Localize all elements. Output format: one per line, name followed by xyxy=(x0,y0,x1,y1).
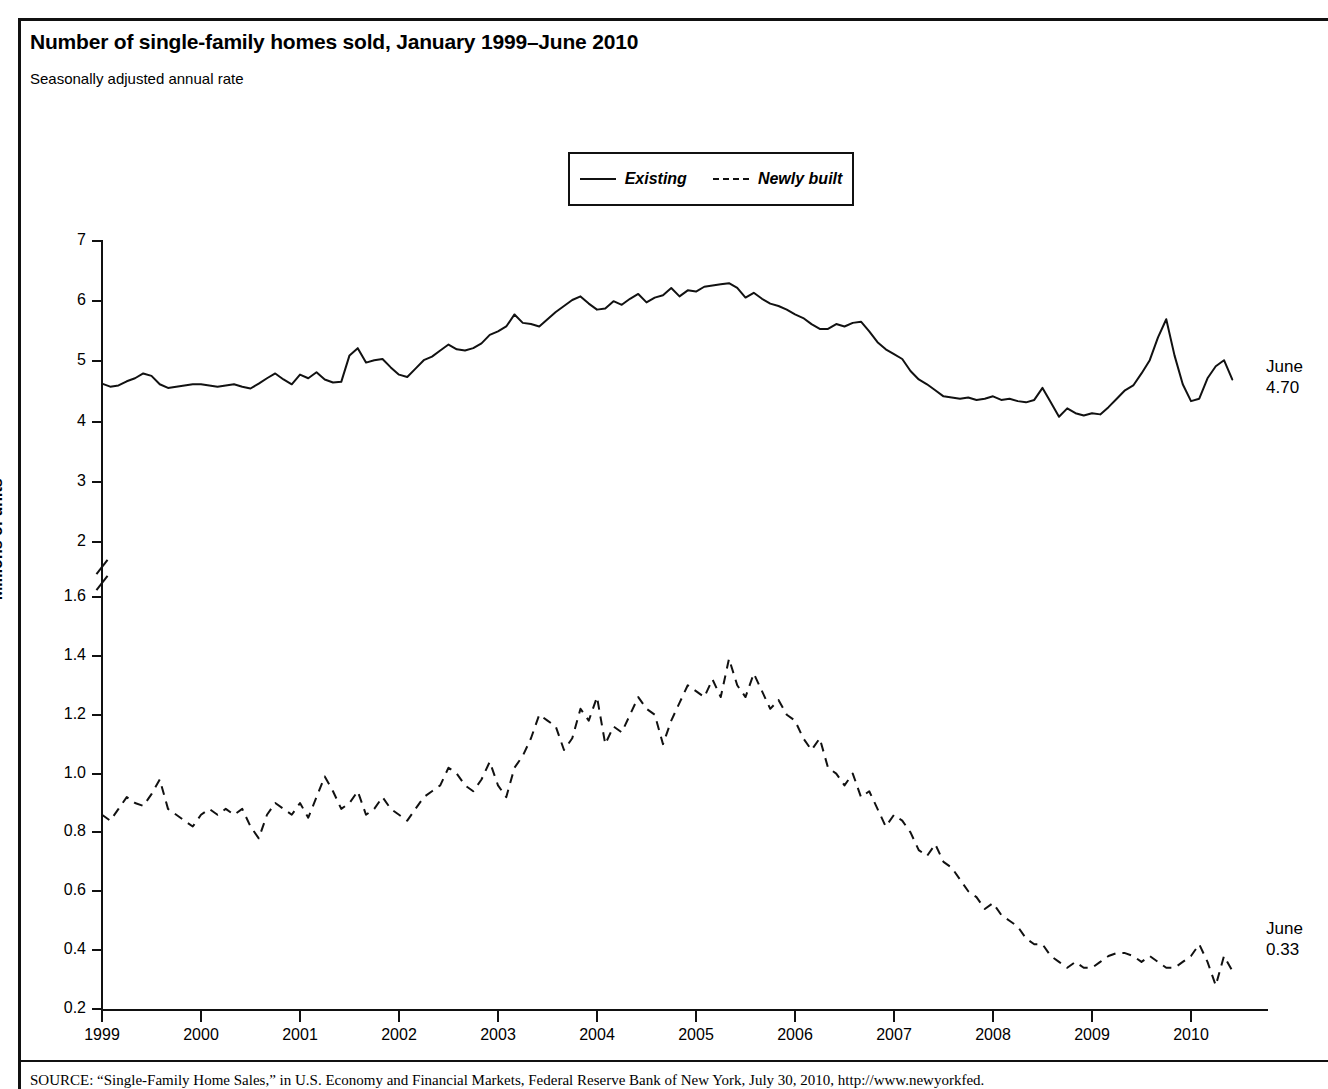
source-note: SOURCE: “Single-Family Home Sales,” in U… xyxy=(30,1072,984,1089)
x-tick-2007 xyxy=(893,1011,895,1022)
legend-label-existing: Existing xyxy=(625,170,687,188)
y-tick-0.6 xyxy=(92,890,103,892)
y-tick-0.8 xyxy=(92,831,103,833)
y-tick-label-4: 4 xyxy=(20,413,86,429)
annotation-existing-label: June xyxy=(1266,356,1303,377)
x-tick-label-2001: 2001 xyxy=(265,1026,335,1044)
y-tick-label-6: 6 xyxy=(20,292,86,308)
x-tick-2009 xyxy=(1091,1011,1093,1022)
x-tick-label-2002: 2002 xyxy=(364,1026,434,1044)
y-tick-3 xyxy=(92,481,103,483)
series-line-existing xyxy=(102,283,1232,417)
x-tick-2002 xyxy=(398,1011,400,1022)
y-tick-label-7: 7 xyxy=(20,232,86,248)
annotation-newly-value: 0.33 xyxy=(1266,939,1303,960)
figure-panel: Number of single-family homes sold, Janu… xyxy=(0,0,1328,1089)
y-tick-label-3: 3 xyxy=(20,473,86,489)
x-tick-label-1999: 1999 xyxy=(67,1026,137,1044)
x-tick-2008 xyxy=(992,1011,994,1022)
x-tick-label-2006: 2006 xyxy=(760,1026,830,1044)
legend-item-newly-built: Newly built xyxy=(713,170,842,188)
y-tick-1.4 xyxy=(92,655,103,657)
annotation-newly-label: June xyxy=(1266,918,1303,939)
y-tick-1.6 xyxy=(92,596,103,598)
y-tick-6 xyxy=(92,300,103,302)
annotation-existing-value: 4.70 xyxy=(1266,377,1303,398)
x-tick-label-2009: 2009 xyxy=(1057,1026,1127,1044)
x-tick-label-2000: 2000 xyxy=(166,1026,236,1044)
chart-subtitle: Seasonally adjusted annual rate xyxy=(30,70,244,87)
y-tick-label-2: 2 xyxy=(20,533,86,549)
x-tick-2004 xyxy=(596,1011,598,1022)
y-tick-label-1.6: 1.6 xyxy=(20,588,86,604)
frame-left-rule xyxy=(18,18,21,1089)
x-tick-label-2005: 2005 xyxy=(661,1026,731,1044)
y-tick-label-0.4: 0.4 xyxy=(20,941,86,957)
y-tick-label-1.0: 1.0 xyxy=(20,765,86,781)
x-tick-label-2008: 2008 xyxy=(958,1026,1028,1044)
legend-swatch-solid-icon xyxy=(580,178,616,180)
y-tick-4 xyxy=(92,421,103,423)
y-tick-1.2 xyxy=(92,714,103,716)
plot-area xyxy=(103,241,1268,1009)
x-tick-label-2004: 2004 xyxy=(562,1026,632,1044)
y-tick-0.4 xyxy=(92,949,103,951)
y-axis-title: Millions of units xyxy=(0,400,6,600)
x-tick-2005 xyxy=(695,1011,697,1022)
frame-top-rule xyxy=(18,18,1328,21)
x-tick-2001 xyxy=(299,1011,301,1022)
y-tick-label-1.4: 1.4 xyxy=(20,647,86,663)
series-line-newly-built xyxy=(102,659,1232,986)
y-tick-label-5: 5 xyxy=(20,352,86,368)
chart-title: Number of single-family homes sold, Janu… xyxy=(30,30,638,54)
x-tick-2003 xyxy=(497,1011,499,1022)
y-tick-label-0.8: 0.8 xyxy=(20,823,86,839)
y-tick-5 xyxy=(92,360,103,362)
y-tick-label-1.2: 1.2 xyxy=(20,706,86,722)
x-tick-1999 xyxy=(101,1011,103,1022)
y-tick-7 xyxy=(92,240,103,242)
y-tick-0.2 xyxy=(92,1008,103,1010)
chart-legend: Existing Newly built xyxy=(568,152,854,206)
y-tick-label-0.2: 0.2 xyxy=(20,1000,86,1016)
annotation-newly-june: June 0.33 xyxy=(1266,918,1303,960)
x-tick-label-2010: 2010 xyxy=(1156,1026,1226,1044)
y-tick-label-0.6: 0.6 xyxy=(20,882,86,898)
legend-label-newly-built: Newly built xyxy=(758,170,842,188)
x-tick-2010 xyxy=(1190,1011,1192,1022)
x-tick-label-2003: 2003 xyxy=(463,1026,533,1044)
frame-bottom-rule xyxy=(18,1060,1328,1062)
legend-item-existing: Existing xyxy=(580,170,687,188)
chart-canvas xyxy=(103,241,1268,1009)
x-tick-2006 xyxy=(794,1011,796,1022)
y-tick-1.0 xyxy=(92,773,103,775)
y-tick-2 xyxy=(92,541,103,543)
legend-swatch-dashed-icon xyxy=(713,178,749,180)
x-tick-2000 xyxy=(200,1011,202,1022)
annotation-existing-june: June 4.70 xyxy=(1266,356,1303,398)
x-tick-label-2007: 2007 xyxy=(859,1026,929,1044)
